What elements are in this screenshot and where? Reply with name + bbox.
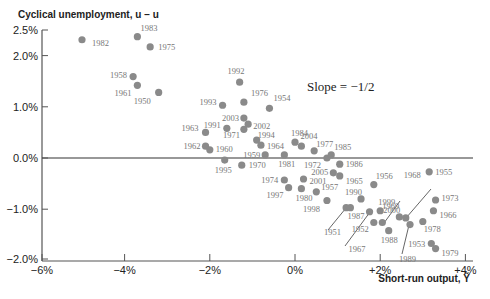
x-tick-label: 0%: [287, 264, 303, 276]
point-label: 1992: [228, 66, 245, 76]
data-point-1988: [385, 227, 392, 234]
data-point-1984: [291, 139, 298, 146]
point-label: 1954: [273, 93, 291, 103]
y-tick-label: 0.0%: [13, 152, 38, 164]
point-label: 1986: [346, 159, 363, 169]
data-point-1960: [206, 146, 213, 153]
point-label: 1976: [251, 88, 268, 98]
data-point-1970: [238, 162, 245, 169]
data-point-1971: [240, 126, 247, 133]
data-points: 1982198319751958196119501992197619931954…: [78, 23, 458, 264]
point-label: 1967: [349, 244, 366, 254]
data-point-1974: [281, 176, 288, 183]
point-label: 1997: [267, 190, 284, 200]
y-tick-label: 2.0%: [13, 50, 38, 62]
data-point-1967: [366, 208, 373, 215]
point-label: 1974: [261, 175, 279, 185]
point-label: 1978: [424, 224, 441, 234]
data-point-1997: [285, 184, 292, 191]
data-point-1985: [328, 151, 335, 158]
point-label: 1991: [204, 120, 221, 130]
data-point-1982: [78, 36, 85, 43]
data-point-1950: [155, 89, 162, 96]
x-tick-label: −4%: [113, 264, 136, 276]
x-tick-label: +4%: [454, 264, 477, 276]
point-label: 1987: [347, 211, 364, 221]
data-point-1966: [430, 207, 437, 214]
data-point-1964: [257, 142, 264, 149]
point-label: 1963: [182, 123, 199, 133]
leader-line-1968: [406, 189, 431, 218]
data-point-2005: [330, 169, 337, 176]
data-point-1998: [323, 197, 330, 204]
point-label: 1983: [140, 23, 157, 33]
data-point-1968: [402, 214, 409, 221]
point-label: 1952: [352, 224, 369, 234]
data-point-1963: [202, 129, 209, 136]
scatter-plot: 2.5%2.0%1.0%0.0%−1.0%−2.0%−6%−4%−2%0%+2%…: [0, 0, 490, 299]
data-point-1976: [240, 99, 247, 106]
point-label: 1950: [134, 96, 151, 106]
data-point-1956: [370, 181, 377, 188]
data-point-2004: [298, 143, 305, 150]
point-label: 1995: [215, 165, 232, 175]
point-label: 1993: [200, 97, 217, 107]
point-label: 1977: [316, 139, 333, 149]
point-label: 1966: [439, 210, 456, 220]
point-label: 1994: [258, 130, 276, 140]
point-label: 1956: [376, 171, 393, 181]
point-label: 1964: [267, 141, 285, 151]
data-point-1954: [266, 105, 273, 112]
point-label: 1979: [442, 248, 459, 258]
point-label: 1962: [184, 141, 201, 151]
data-point-1983: [134, 33, 141, 40]
data-point-1979: [432, 245, 439, 252]
data-point-1993: [219, 102, 226, 109]
point-label: 1998: [303, 204, 320, 214]
y-tick-label: 1.0%: [13, 101, 38, 113]
data-point-1975: [147, 43, 154, 50]
point-label: 1989: [399, 254, 416, 264]
x-tick-label: −2%: [199, 264, 222, 276]
data-point-1958: [130, 73, 137, 80]
point-label: 1959: [243, 150, 260, 160]
point-label: 1971: [223, 130, 240, 140]
y-tick-label: 2.5%: [13, 24, 38, 36]
point-label: 1960: [216, 144, 233, 154]
point-label: 1980: [295, 193, 312, 203]
point-label: 1958: [110, 70, 127, 80]
data-point-1986: [336, 161, 343, 168]
point-label: 1988: [381, 235, 398, 245]
data-point-1957: [313, 188, 320, 195]
point-label: 1955: [435, 167, 452, 177]
x-tick-label: +2%: [369, 264, 392, 276]
point-label: 1970: [249, 160, 266, 170]
point-label: 1961: [114, 88, 131, 98]
data-point-1955: [426, 168, 433, 175]
point-label: 1981: [278, 159, 295, 169]
data-point-1981: [281, 151, 288, 158]
point-label: 1968: [404, 170, 421, 180]
point-label: 1982: [92, 38, 109, 48]
y-tick-label: −1.0%: [7, 203, 39, 215]
data-point-1952: [370, 219, 377, 226]
data-point-1965: [336, 172, 343, 179]
data-point-1959: [262, 151, 269, 158]
data-point-1969: [379, 219, 386, 226]
data-point-1973: [432, 196, 439, 203]
data-point-2003: [240, 114, 247, 121]
data-point-1989: [406, 221, 413, 228]
point-label: 1975: [158, 42, 175, 52]
point-label: 1951: [324, 227, 341, 237]
x-tick-label: −6%: [31, 264, 54, 276]
data-point-2001: [300, 175, 307, 182]
data-point-1992: [236, 79, 243, 86]
data-point-1980: [298, 185, 305, 192]
point-label: 1957: [321, 182, 338, 192]
data-point-1961: [134, 82, 141, 89]
data-point-1995: [221, 156, 228, 163]
point-label: 2003: [222, 113, 239, 123]
point-label: 1990: [345, 187, 362, 197]
point-label: 2000: [383, 205, 400, 215]
point-label: 1973: [442, 193, 459, 203]
